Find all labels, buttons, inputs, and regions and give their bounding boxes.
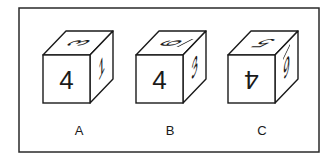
- cube-label-b: B: [166, 123, 175, 138]
- cube-puzzle-figure: 431 493 459 A B C: [0, 0, 334, 157]
- cube-c: 459: [228, 31, 298, 103]
- cube-front-number: 4: [244, 65, 258, 95]
- cube-b: 493: [136, 31, 206, 103]
- cube-front-number: 4: [152, 65, 166, 95]
- cube-front-number: 4: [59, 65, 73, 95]
- cube-a: 431: [43, 31, 113, 103]
- cube-label-c: C: [257, 123, 266, 138]
- cube-label-a: A: [75, 123, 84, 138]
